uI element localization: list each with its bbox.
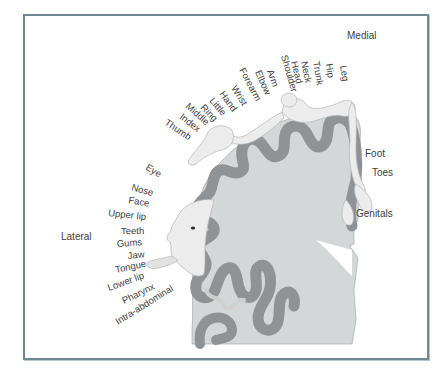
homunculus-diagram: Medial Lateral Leg Hip Trunk Neck Head S…	[0, 0, 441, 379]
label-gums: Gums	[116, 236, 142, 249]
label-lateral: Lateral	[61, 231, 92, 242]
label-genitals: Genitals	[356, 208, 393, 219]
label-medial: Medial	[347, 30, 376, 41]
label-upper-lip: Upper lip	[108, 207, 147, 222]
tongue	[147, 256, 178, 269]
label-eye: Eye	[144, 161, 164, 179]
eye	[191, 226, 195, 229]
label-foot: Foot	[365, 148, 385, 159]
label-leg: Leg	[338, 64, 352, 82]
label-face: Face	[128, 194, 151, 209]
label-hip: Hip	[324, 63, 337, 79]
body-head	[281, 93, 297, 107]
label-teeth: Teeth	[121, 225, 144, 236]
label-toes: Toes	[372, 167, 393, 178]
